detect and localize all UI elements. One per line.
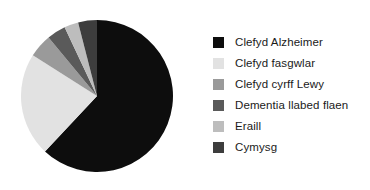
legend-item[interactable]: Dementia llabed flaen [213,95,363,116]
pie-slice-group [21,20,173,172]
legend-item[interactable]: Cymysg [213,137,363,158]
legend-swatch-icon [213,121,224,132]
pie-chart-figure: Clefyd Alzheimer Clefyd fasgwlar Clefyd … [0,0,370,190]
legend-swatch-icon [213,37,224,48]
legend-item-label: Eraill [235,120,261,133]
pie-chart-svg [0,0,190,190]
legend-item-label: Clefyd Alzheimer [235,36,323,49]
legend-item[interactable]: Clefyd fasgwlar [213,53,363,74]
legend-item-label: Cymysg [235,141,277,154]
legend-item[interactable]: Clefyd cyrff Lewy [213,74,363,95]
legend-item-label: Clefyd cyrff Lewy [235,78,324,91]
legend-item-label: Dementia llabed flaen [235,99,348,112]
pie-chart-plot-area [0,0,190,190]
legend-swatch-icon [213,100,224,111]
legend-swatch-icon [213,79,224,90]
legend-item[interactable]: Clefyd Alzheimer [213,32,363,53]
chart-legend: Clefyd Alzheimer Clefyd fasgwlar Clefyd … [213,32,363,158]
legend-swatch-icon [213,58,224,69]
legend-item-label: Clefyd fasgwlar [235,57,315,70]
legend-swatch-icon [213,142,224,153]
legend-item[interactable]: Eraill [213,116,363,137]
